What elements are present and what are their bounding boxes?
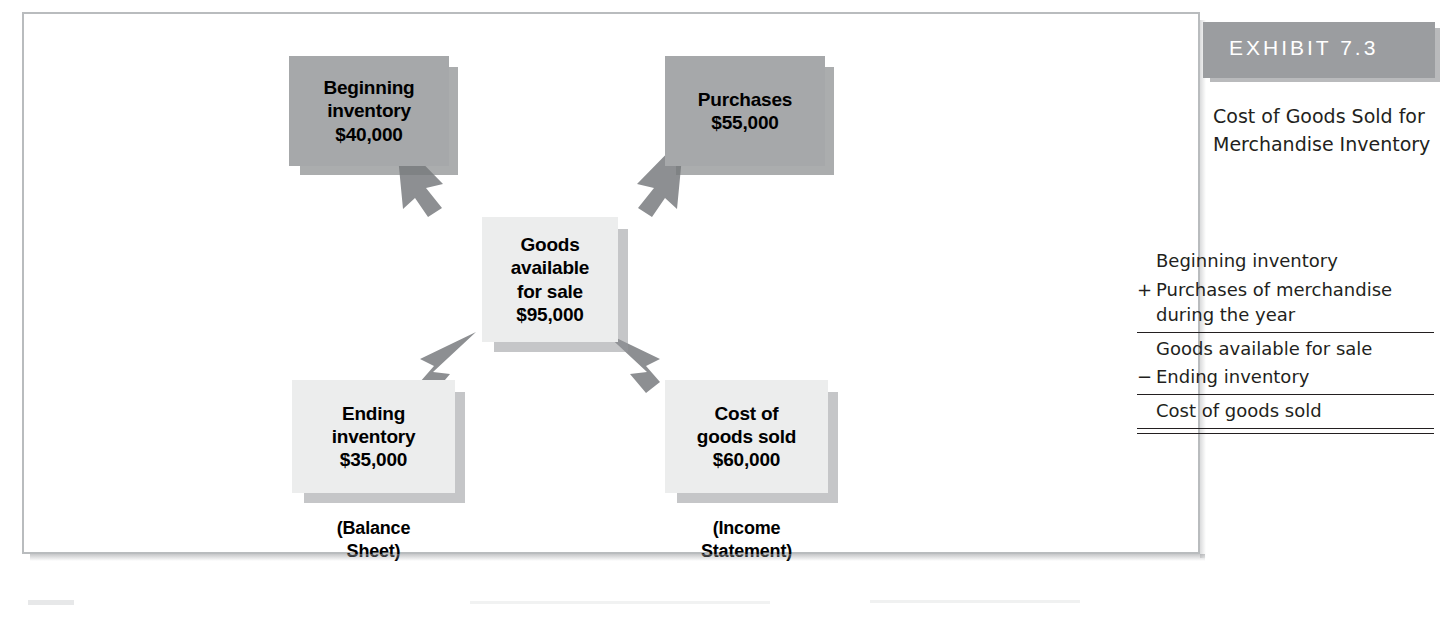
formula-label-ending-inventory: Ending inventory — [1156, 364, 1437, 390]
box-ending-inventory-amount: $35,000 — [340, 448, 407, 471]
box-ending-inventory: Ending inventory $35,000 — [292, 380, 455, 493]
exhibit-subtitle-line2: Merchandise Inventory — [1213, 131, 1439, 159]
formula-rule-double-total — [1137, 428, 1434, 434]
formula-label-purchases: Purchases of merchandise during the year — [1156, 277, 1437, 328]
box-purchases-line1: Purchases — [698, 88, 792, 111]
formula-row-ending-inventory: − Ending inventory — [1137, 363, 1437, 392]
exhibit-banner-label: EXHIBIT 7.3 — [1229, 36, 1378, 60]
formula-operator-minus: − — [1137, 364, 1156, 390]
box-cost-of-goods-sold: Cost of goods sold $60,000 — [665, 380, 828, 493]
box-purchases-amount: $55,000 — [711, 111, 778, 134]
box-goods-available-for-sale: Goods available for sale $95,000 — [482, 217, 618, 342]
scan-artifact-strip — [28, 600, 74, 605]
box-goods-available-line2: available — [511, 256, 589, 279]
formula-rule-above-goods-available — [1137, 332, 1434, 333]
panel-drop-shadow-bottom — [30, 554, 1205, 561]
box-cost-of-goods-sold-line2: goods sold — [697, 425, 796, 448]
diagram-panel: Beginning inventory $40,000 Purchases $5… — [22, 12, 1200, 554]
box-cost-of-goods-sold-line1: Cost of — [714, 402, 778, 425]
box-beginning-inventory-amount: $40,000 — [335, 123, 402, 146]
box-ending-inventory-line2: inventory — [332, 425, 416, 448]
box-goods-available-line3: for sale — [517, 280, 583, 303]
scan-artifact-strip — [470, 601, 770, 604]
formula-label-goods-available: Goods available for sale — [1156, 336, 1437, 362]
formula-label-cost-of-goods-sold: Cost of goods sold — [1156, 398, 1437, 424]
formula-row-beginning-inventory: Beginning inventory — [1137, 247, 1437, 276]
exhibit-subtitle-line1: Cost of Goods Sold for — [1213, 103, 1439, 131]
caption-balance-sheet-line1: (Balance — [292, 517, 455, 540]
box-beginning-inventory: Beginning inventory $40,000 — [289, 56, 449, 166]
formula-row-goods-available: Goods available for sale — [1137, 335, 1437, 364]
box-beginning-inventory-line1: Beginning — [323, 76, 414, 99]
box-goods-available-line1: Goods — [520, 233, 579, 256]
scan-artifact-strip — [870, 600, 1080, 603]
exhibit-subtitle: Cost of Goods Sold for Merchandise Inven… — [1213, 103, 1439, 158]
cogs-formula-block: Beginning inventory + Purchases of merch… — [1137, 247, 1437, 434]
formula-operator-plus: + — [1137, 277, 1156, 303]
formula-label-beginning-inventory: Beginning inventory — [1156, 248, 1437, 274]
formula-rule-above-cogs — [1137, 394, 1434, 395]
box-purchases: Purchases $55,000 — [665, 56, 825, 166]
box-beginning-inventory-line2: inventory — [327, 99, 411, 122]
box-cost-of-goods-sold-amount: $60,000 — [713, 448, 780, 471]
box-ending-inventory-line1: Ending — [342, 402, 405, 425]
formula-row-cost-of-goods-sold: Cost of goods sold — [1137, 397, 1437, 426]
formula-row-purchases: + Purchases of merchandise during the ye… — [1137, 276, 1437, 330]
caption-income-statement-line1: (Income — [665, 517, 828, 540]
box-goods-available-amount: $95,000 — [516, 303, 583, 326]
